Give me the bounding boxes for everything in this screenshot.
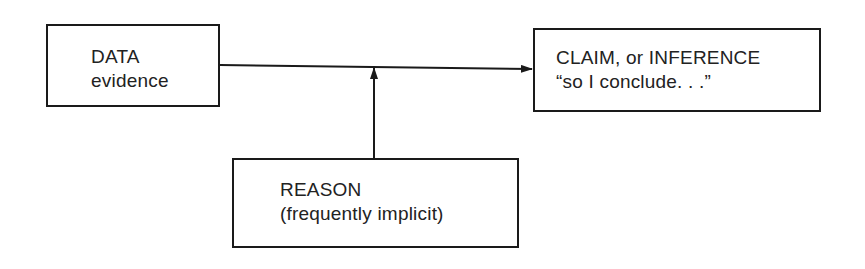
reason-box-text: REASON (frequently implicit) [280,178,444,226]
data-to-claim-arrow [220,65,532,69]
data-sublabel: evidence [91,69,169,93]
data-box-text: DATA evidence [91,45,169,93]
reason-label: REASON [280,178,444,202]
claim-sublabel: “so I conclude. . .” [556,70,760,94]
claim-box: CLAIM, or INFERENCE “so I conclude. . .” [533,28,821,112]
reason-sublabel: (frequently implicit) [280,202,444,226]
claim-label: CLAIM, or INFERENCE [556,46,760,70]
data-label: DATA [91,45,169,69]
claim-box-text: CLAIM, or INFERENCE “so I conclude. . .” [556,46,760,94]
reason-box: REASON (frequently implicit) [232,158,519,248]
data-box: DATA evidence [46,24,220,107]
